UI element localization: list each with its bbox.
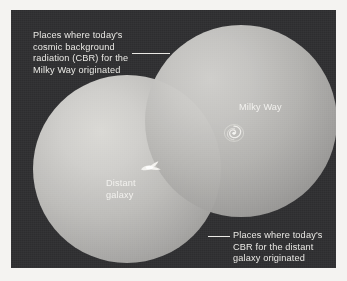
spiral-galaxy-icon (223, 123, 245, 143)
label-milky-way: Milky Way (239, 102, 309, 114)
milky-way-cbr-sphere (145, 25, 336, 217)
irregular-galaxy-icon (139, 160, 163, 174)
callout-cbr-distant-galaxy: Places where today's CBR for the distant… (233, 230, 336, 265)
label-distant-galaxy: Distant galaxy (106, 178, 164, 201)
callout-cbr-milky-way: Places where today's cosmic background r… (33, 30, 159, 76)
leader-line-bottom (208, 236, 230, 237)
cbr-spheres-figure: Places where today's cosmic background r… (0, 0, 347, 281)
sky-panel: Places where today's cosmic background r… (11, 10, 336, 268)
